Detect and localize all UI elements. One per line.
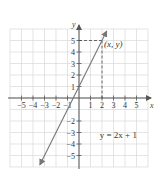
x-tick-label: 1 <box>89 101 93 110</box>
y-tick-label: −3 <box>66 129 75 138</box>
x-axis-label: x <box>149 101 154 110</box>
x-tick-label: −3 <box>40 101 49 110</box>
y-tick-label: −2 <box>66 117 75 126</box>
x-tick-label: −4 <box>29 101 38 110</box>
equation-label: y = 2x + 1 <box>100 130 137 140</box>
y-tick-label: 3 <box>71 60 75 69</box>
y-axis-label: y <box>71 20 76 29</box>
y-tick-label: −5 <box>66 152 75 161</box>
x-tick-label: 5 <box>135 101 139 110</box>
y-tick-label: 5 <box>71 37 75 46</box>
y-tick-label: 4 <box>71 48 75 57</box>
x-tick-label: 3 <box>112 101 116 110</box>
coordinate-plane: xy−5−4−3−2−112345−5−4−3−212345(x, y)y = … <box>0 0 159 180</box>
x-tick-label: −2 <box>52 101 61 110</box>
point-label: (x, y) <box>104 39 122 49</box>
y-tick-label: 1 <box>71 83 75 92</box>
x-tick-label: 4 <box>123 101 127 110</box>
x-tick-label: −5 <box>17 101 26 110</box>
y-tick-label: −4 <box>66 140 75 149</box>
y-tick-label: 2 <box>71 71 75 80</box>
x-tick-label: 2 <box>100 101 104 110</box>
